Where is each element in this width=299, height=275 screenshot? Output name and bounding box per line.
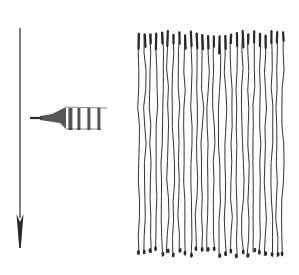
fiber-bottom-end xyxy=(207,247,210,252)
fiber xyxy=(247,34,249,257)
pipette-band xyxy=(68,108,72,130)
fiber-bottom-end xyxy=(149,248,152,253)
fiber xyxy=(195,34,197,251)
fiber-bottom-end xyxy=(253,248,256,253)
fiber-bottom-end xyxy=(281,251,284,256)
fiber-bottom-end xyxy=(179,248,182,253)
fiber xyxy=(149,34,151,252)
fiber xyxy=(241,31,244,254)
fiber-top-end xyxy=(243,31,244,47)
fiber xyxy=(236,33,238,258)
fiber xyxy=(218,36,220,257)
down-arrow-icon xyxy=(17,28,24,248)
fiber xyxy=(172,35,175,257)
fiber xyxy=(155,34,157,251)
pipette-band xyxy=(77,108,80,130)
fiber-bottom-end xyxy=(190,253,193,258)
fiber-bottom-end xyxy=(195,246,198,251)
fiber-bottom-end xyxy=(213,246,216,251)
pipette-icon xyxy=(30,107,107,130)
fiber xyxy=(166,31,169,253)
fiber-bottom-end xyxy=(172,253,175,258)
fiber-bottom-end xyxy=(218,253,221,258)
fiber xyxy=(144,34,147,254)
fiber xyxy=(276,32,278,256)
diagram-canvas xyxy=(0,0,299,275)
pipette-band xyxy=(97,108,100,130)
fiber-top-end xyxy=(202,35,203,49)
fiber-bottom-end xyxy=(167,248,170,253)
fiber-bottom-end xyxy=(162,252,165,257)
fiber-bottom-end xyxy=(184,251,187,256)
fiber-top-end xyxy=(185,35,186,48)
fiber-bundle xyxy=(137,31,284,258)
pipette-band xyxy=(87,108,90,130)
fiber-bottom-end xyxy=(247,253,250,258)
fiber-top-end xyxy=(219,36,220,53)
fiber-bottom-end xyxy=(242,249,245,254)
fiber xyxy=(224,36,227,256)
fiber-bottom-end xyxy=(201,247,204,252)
fiber xyxy=(201,35,204,251)
fiber-bottom-end xyxy=(137,250,140,255)
fiber xyxy=(191,32,192,257)
fiber-top-end xyxy=(283,32,284,40)
fiber xyxy=(207,36,210,251)
fiber-top-end xyxy=(197,34,198,49)
fiber-top-end xyxy=(191,32,192,46)
fiber xyxy=(138,34,140,255)
fiber xyxy=(161,33,164,257)
fiber xyxy=(230,35,232,253)
fiber xyxy=(271,31,273,256)
pipette-cone xyxy=(40,107,66,129)
fiber-bottom-end xyxy=(264,251,267,256)
fiber-top-end xyxy=(167,31,168,46)
fiber-bottom-end xyxy=(229,249,232,254)
fiber xyxy=(259,34,261,254)
fiber xyxy=(253,31,255,252)
arrow-head xyxy=(17,214,24,248)
fiber-bottom-end xyxy=(277,252,280,257)
fiber xyxy=(213,36,215,250)
fiber-bottom-end xyxy=(143,249,146,254)
fiber xyxy=(184,35,186,255)
fiber xyxy=(178,32,180,252)
fiber-bottom-end xyxy=(235,253,238,258)
fiber xyxy=(281,32,284,255)
fiber-bottom-end xyxy=(224,251,227,256)
pipette-body-top xyxy=(66,107,107,108)
fiber xyxy=(264,36,266,256)
fiber-bottom-end xyxy=(258,250,261,255)
fiber-bottom-end xyxy=(154,246,157,251)
fiber-top-end xyxy=(145,34,146,46)
fiber-bottom-end xyxy=(271,252,274,257)
